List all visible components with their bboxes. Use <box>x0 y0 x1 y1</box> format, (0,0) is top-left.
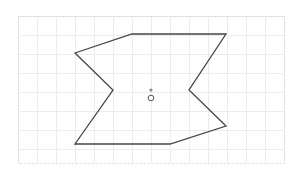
shape-center-point-icon <box>149 88 152 91</box>
diagram-canvas[interactable] <box>0 0 299 171</box>
rotate-handle-icon[interactable] <box>148 95 154 101</box>
